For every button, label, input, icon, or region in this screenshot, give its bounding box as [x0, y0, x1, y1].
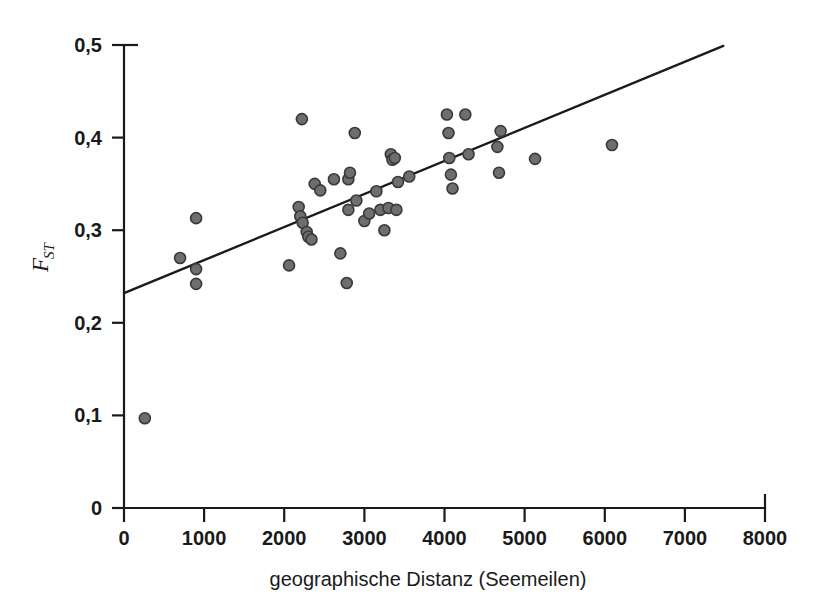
x-axis-title: geographische Distanz (Seemeilen) — [270, 568, 587, 590]
y-axis-title-subscript: ST — [41, 242, 57, 260]
x-axis-tick-labels: 0 1000 2000 3000 4000 5000 6000 7000 800… — [118, 527, 787, 549]
y-axis-tick-labels: 0 0,1 0,2 0,3 0,4 0,5 — [74, 34, 103, 519]
data-point — [463, 149, 474, 160]
data-point — [493, 167, 504, 178]
x-tick-label-1: 1000 — [182, 527, 227, 549]
data-point — [447, 183, 458, 194]
data-point — [139, 413, 150, 424]
data-point — [343, 204, 354, 215]
data-point — [335, 248, 346, 259]
data-point — [175, 252, 186, 263]
data-point — [306, 234, 317, 245]
data-point — [315, 185, 326, 196]
data-point — [441, 109, 452, 120]
x-tick-label-4: 4000 — [422, 527, 467, 549]
regression-trendline — [124, 46, 723, 293]
x-axis-ticks — [124, 508, 765, 522]
y-tick-label-4: 0,4 — [74, 127, 103, 149]
chart-canvas: 0 0,1 0,2 0,3 0,4 0,5 0 1000 2000 3000 4… — [0, 0, 826, 609]
data-point — [351, 195, 362, 206]
data-point — [328, 174, 339, 185]
data-point — [443, 127, 454, 138]
data-point — [371, 186, 382, 197]
data-point — [393, 177, 404, 188]
y-tick-label-3: 0,3 — [74, 219, 102, 241]
data-point — [191, 278, 202, 289]
y-tick-label-2: 0,2 — [74, 312, 102, 334]
data-point — [341, 277, 352, 288]
y-tick-label-0: 0 — [91, 497, 102, 519]
data-point — [495, 126, 506, 137]
x-tick-label-0: 0 — [118, 527, 129, 549]
y-axis-title: F ST — [28, 242, 57, 274]
data-point — [296, 114, 307, 125]
y-tick-label-1: 0,1 — [74, 404, 102, 426]
data-point — [191, 264, 202, 275]
data-point — [445, 169, 456, 180]
data-point — [606, 140, 617, 151]
data-point — [364, 208, 375, 219]
x-tick-label-7: 7000 — [663, 527, 708, 549]
x-tick-label-3: 3000 — [342, 527, 387, 549]
data-point — [284, 260, 295, 271]
y-axis-ticks — [112, 45, 124, 508]
data-point — [344, 167, 355, 178]
y-tick-label-5: 0,5 — [74, 34, 102, 56]
x-tick-label-6: 6000 — [583, 527, 628, 549]
data-point — [404, 171, 415, 182]
data-point — [349, 127, 360, 138]
data-point — [460, 109, 471, 120]
scatter-points-group — [139, 109, 617, 424]
x-tick-label-8: 8000 — [743, 527, 788, 549]
data-point — [389, 152, 400, 163]
x-tick-label-2: 2000 — [262, 527, 307, 549]
data-point — [492, 141, 503, 152]
data-point — [530, 153, 541, 164]
data-point — [379, 225, 390, 236]
scatter-chart-figure: 0 0,1 0,2 0,3 0,4 0,5 0 1000 2000 3000 4… — [0, 0, 826, 609]
data-point — [191, 213, 202, 224]
x-tick-label-5: 5000 — [502, 527, 547, 549]
data-point — [444, 152, 455, 163]
data-point — [391, 204, 402, 215]
